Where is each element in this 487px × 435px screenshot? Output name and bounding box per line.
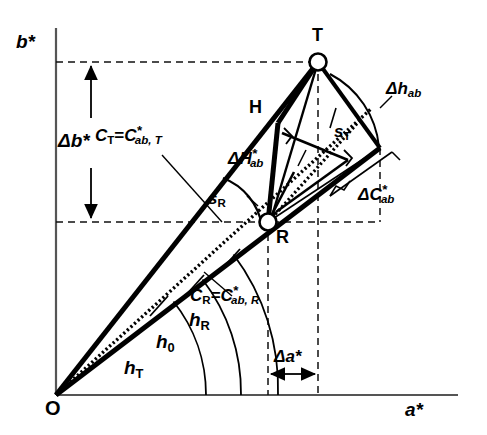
- chroma-label-leaders: [162, 155, 232, 296]
- chroma-R-equals: =: [211, 286, 221, 305]
- edge-T-H: [278, 62, 318, 123]
- chroma-R-lhs-sub: R: [202, 294, 210, 306]
- leader-delta-H-ab-thin: [298, 150, 306, 166]
- axis-label-b: b*: [16, 32, 35, 51]
- hue-angle-T-main: h: [124, 357, 136, 378]
- delta-h-ab-label: Δhab: [386, 80, 421, 97]
- hue-angle-R-sub: R: [201, 318, 210, 333]
- tick-s-R: [247, 196, 258, 206]
- delta-h-ab-main: Δh: [386, 79, 408, 98]
- delta-H-ab-main: ΔH: [228, 149, 252, 168]
- point-label-T: T: [312, 26, 323, 44]
- point-label-H: H: [249, 98, 262, 116]
- delta-H-ab-sub: ab: [250, 157, 263, 169]
- s-T-label: sT: [334, 123, 351, 140]
- delta-b-label: Δb*: [58, 131, 90, 150]
- chroma-T-lhs: C: [95, 126, 107, 145]
- delta-C-ab-main: ΔC: [358, 185, 382, 204]
- marker-point-R: [260, 214, 277, 231]
- line-C-R: [56, 148, 380, 395]
- figure-canvas: b* a* O T R H Δb* Δa* Δhab ΔC*ab ΔH*ab C…: [0, 0, 487, 435]
- hue-angle-T-sub: T: [136, 366, 144, 381]
- point-label-R: R: [276, 228, 289, 246]
- chroma-T-lhs-sub: T: [107, 134, 114, 146]
- point-label-O: O: [45, 398, 61, 418]
- s-R-label: sR: [208, 190, 226, 207]
- hue-angle-R-label: hR: [189, 310, 210, 329]
- hue-angle-mean-main: h: [156, 331, 168, 352]
- chroma-lines: [56, 62, 380, 395]
- hue-angle-R-main: h: [189, 309, 201, 330]
- delta-H-ab-label: ΔH*ab: [228, 150, 263, 167]
- marker-point-T: [310, 54, 327, 71]
- construction-dashed-lines: [56, 62, 380, 395]
- delta-C-ab-label: ΔC*ab: [358, 186, 394, 203]
- hue-angle-arcs: [150, 249, 278, 395]
- s-T-sub: T: [343, 130, 350, 142]
- hue-angle-T-label: hT: [124, 358, 144, 377]
- chroma-R-rhs-sub: ab, R: [231, 294, 259, 306]
- chroma-T-equals: =: [114, 126, 124, 145]
- arc-s-R: [223, 178, 262, 226]
- hue-angle-mean-sub: 0: [168, 340, 175, 355]
- chroma-R-label: CR=C*ab, R: [190, 287, 259, 304]
- axis-label-a: a*: [405, 400, 423, 419]
- s-R-sub: R: [217, 197, 225, 209]
- delta-C-ab-sub: ab: [381, 193, 394, 205]
- hue-angle-mean-label: h0: [156, 332, 175, 351]
- chroma-R-lhs: C: [190, 286, 202, 305]
- chroma-T-rhs-sub: ab, T: [135, 134, 162, 146]
- diagram-svg: [0, 0, 487, 435]
- s-R-annotation: [223, 178, 262, 226]
- bracket-C-tip: [392, 152, 400, 160]
- chroma-T-label: CT=C*ab, T: [95, 127, 162, 144]
- delta-h-ab-sub: ab: [408, 87, 421, 99]
- delta-a-label: Δa*: [274, 348, 301, 365]
